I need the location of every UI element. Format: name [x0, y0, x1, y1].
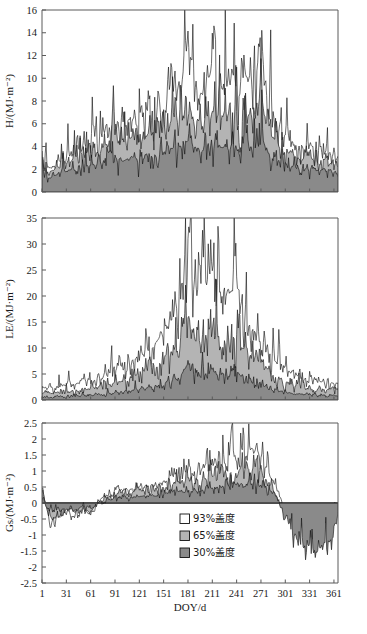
- x-tick-label: 121: [131, 588, 147, 599]
- y-tick-label: -2: [28, 562, 37, 573]
- y-tick-label: 2.5: [24, 418, 37, 429]
- y-tick-label: 0: [32, 395, 37, 406]
- y-axis-title: LE/(MJ·m⁻²): [3, 279, 16, 339]
- y-tick-label: 10: [27, 73, 38, 84]
- y-tick-label: 1.5: [24, 450, 37, 461]
- x-tick-label: 1: [39, 588, 44, 599]
- legend-swatch-2: [180, 531, 190, 541]
- y-tick-label: 5: [32, 369, 37, 380]
- y-tick-label: 4: [32, 141, 38, 152]
- y-tick-label: 16: [27, 5, 38, 16]
- chart-panel-latent-heat: 05101520253035LE/(MJ·m⁻²): [0, 210, 367, 415]
- x-tick-label: 241: [229, 588, 245, 599]
- y-tick-label: 0.5: [24, 482, 37, 493]
- y-tick-label: 1: [32, 466, 37, 477]
- x-tick-label: 331: [302, 588, 318, 599]
- y-tick-label: 2: [32, 434, 37, 445]
- y-tick-label: -1: [28, 530, 37, 541]
- legend-label-1: 93%盖度: [193, 512, 235, 524]
- x-tick-label: 211: [205, 588, 220, 599]
- y-tick-label: 2: [32, 164, 37, 175]
- chart-panel-soil-heat: -2.5-2-1.5-1-0.500.511.522.5Gs/(MJ·m⁻²)9…: [0, 415, 367, 634]
- figure-root: 0246810121416H/(MJ·m⁻²) 05101520253035LE…: [0, 0, 367, 634]
- y-tick-label: 6: [32, 118, 37, 129]
- soil-heat-flux-chart: -2.5-2-1.5-1-0.500.511.522.5Gs/(MJ·m⁻²)9…: [0, 415, 367, 634]
- x-tick-label: 31: [61, 588, 72, 599]
- y-tick-label: -0.5: [20, 514, 37, 525]
- x-tick-label: 361: [326, 588, 342, 599]
- chart-panel-sensible-heat: 0246810121416H/(MJ·m⁻²): [0, 0, 367, 210]
- y-tick-label: 35: [27, 213, 38, 224]
- y-tick-label: 15: [27, 317, 38, 328]
- legend-label-3: 30%盖度: [193, 546, 235, 558]
- y-tick-label: 20: [27, 291, 38, 302]
- y-tick-label: 12: [27, 50, 38, 61]
- latent-heat-flux-chart: 05101520253035LE/(MJ·m⁻²): [0, 210, 367, 415]
- x-tick-label: 301: [277, 588, 293, 599]
- legend-label-2: 65%盖度: [193, 529, 235, 541]
- legend-swatch-1: [180, 514, 190, 524]
- y-tick-label: 10: [27, 343, 38, 354]
- y-tick-label: 30: [27, 239, 38, 250]
- y-tick-label: 8: [32, 96, 37, 107]
- y-tick-label: 25: [27, 265, 38, 276]
- x-tick-label: 61: [85, 588, 96, 599]
- y-axis-title: Gs/(MJ·m⁻²): [3, 474, 16, 533]
- x-tick-label: 181: [180, 588, 196, 599]
- sensible-heat-flux-chart: 0246810121416H/(MJ·m⁻²): [0, 0, 367, 210]
- y-tick-label: 0: [32, 498, 37, 509]
- x-tick-label: 151: [156, 588, 172, 599]
- y-axis-title: H/(MJ·m⁻²): [3, 74, 16, 128]
- y-tick-label: 0: [32, 187, 37, 198]
- y-tick-label: 14: [27, 27, 38, 38]
- x-axis-title: DOY/d: [174, 601, 207, 613]
- x-tick-label: 91: [110, 588, 121, 599]
- y-tick-label: -1.5: [20, 546, 37, 557]
- legend-swatch-3: [180, 548, 190, 558]
- y-tick-label: -2.5: [20, 578, 37, 589]
- x-tick-label: 271: [253, 588, 269, 599]
